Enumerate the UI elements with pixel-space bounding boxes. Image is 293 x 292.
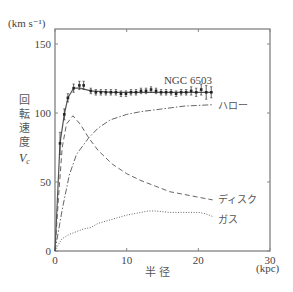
data-point — [120, 92, 123, 95]
data-point — [78, 84, 81, 87]
data-point — [165, 91, 168, 94]
data-point — [180, 91, 183, 94]
data-point — [150, 88, 153, 91]
data-point — [160, 91, 163, 94]
data-point — [140, 90, 143, 93]
data-point — [110, 91, 113, 94]
data-point — [63, 113, 66, 116]
data-point — [185, 91, 188, 94]
plot-axes: 0102030050100150 — [35, 29, 277, 266]
data-point — [100, 91, 103, 94]
data-point — [200, 88, 203, 91]
annotation-label: NGC 6503 — [164, 74, 212, 86]
chart-labels: (km s⁻¹) (kpc) 半 径 回転速度 Vc — [8, 17, 280, 279]
plot-curves — [55, 88, 213, 251]
curve-ガス — [55, 211, 213, 251]
data-point — [82, 84, 85, 87]
y-tick-label: 0 — [46, 245, 52, 257]
annotation-label: ハロー — [218, 100, 248, 111]
data-point — [90, 90, 93, 93]
x-tick-label: 20 — [193, 254, 205, 266]
x-axis-label: 半 径 — [145, 265, 171, 279]
data-point — [195, 91, 198, 94]
svg-text:速: 速 — [19, 122, 30, 135]
svg-text:転: 転 — [19, 108, 30, 121]
data-point — [130, 91, 133, 94]
data-point — [175, 92, 178, 95]
y-axis-symbol: Vc — [19, 151, 30, 166]
curve-ディスク — [55, 116, 213, 251]
data-point — [205, 91, 208, 94]
x-tick-label: 10 — [121, 254, 133, 266]
data-point — [105, 91, 108, 94]
data-point — [210, 91, 213, 94]
data-point — [72, 87, 75, 90]
x-tick-label: 0 — [52, 254, 58, 266]
annotation-label: ディスク — [218, 193, 257, 205]
data-point — [155, 90, 158, 93]
y-axis-label: 回転速度 — [19, 94, 30, 149]
data-point — [135, 91, 138, 94]
data-point — [125, 92, 128, 95]
data-point — [67, 97, 70, 100]
series-annotations: NGC 6503ハローディスクガス — [164, 74, 257, 225]
svg-text:回: 回 — [19, 94, 30, 107]
rotation-curve-chart: 0102030050100150 (km s⁻¹) (kpc) 半 径 回転速度… — [0, 0, 293, 292]
y-unit-label: (km s⁻¹) — [8, 17, 46, 30]
data-point — [95, 91, 98, 94]
y-tick-label: 150 — [35, 38, 52, 50]
x-unit-label: (kpc) — [256, 262, 280, 275]
annotation-label: ガス — [218, 214, 238, 225]
data-point — [59, 142, 62, 145]
svg-text:度: 度 — [19, 135, 30, 149]
data-point — [170, 91, 173, 94]
y-tick-label: 50 — [40, 176, 52, 188]
y-tick-label: 100 — [35, 107, 52, 119]
data-point — [145, 90, 148, 93]
curve-ハロー — [55, 105, 213, 251]
data-point — [115, 91, 118, 94]
data-point — [190, 90, 193, 93]
